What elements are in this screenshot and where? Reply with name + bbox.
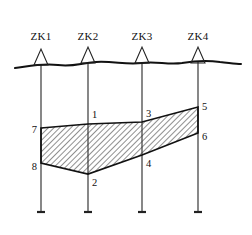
- stratum-point-label-3: 3: [146, 108, 151, 119]
- borehole-labels-group: ZK1ZK2ZK3ZK4: [31, 30, 209, 42]
- ground-surface-icon: [15, 61, 241, 68]
- borehole-marker-triangle-zk3: [135, 47, 149, 63]
- stratum-point-label-6: 6: [202, 131, 207, 142]
- stratum-point-label-5: 5: [202, 101, 207, 112]
- borehole-marker-triangle-zk2: [81, 47, 95, 63]
- borehole-marker-triangle-zk1: [34, 49, 48, 65]
- borehole-label-zk4: ZK4: [188, 30, 209, 42]
- borehole-label-zk3: ZK3: [132, 30, 153, 42]
- borehole-label-zk1: ZK1: [31, 30, 52, 42]
- stratum-point-label-1: 1: [92, 109, 97, 120]
- stratum-point-label-4: 4: [146, 158, 152, 169]
- soil-layer-hatch-fill: [41, 107, 198, 174]
- stratum-point-label-2: 2: [92, 177, 97, 188]
- stratum-point-label-8: 8: [32, 161, 37, 172]
- cross-section-canvas: ZK1ZK2ZK3ZK4 12345678: [0, 0, 252, 235]
- geological-cross-section-figure: ZK1ZK2ZK3ZK4 12345678: [0, 0, 252, 235]
- stratum-point-label-7: 7: [32, 124, 37, 135]
- borehole-label-zk2: ZK2: [78, 30, 99, 42]
